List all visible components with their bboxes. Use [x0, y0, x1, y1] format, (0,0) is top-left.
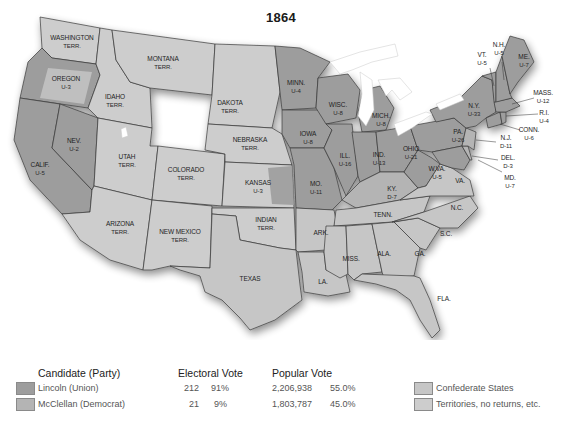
legend-lincoln-ev-pct: 91%: [211, 383, 229, 393]
leader-ri: [506, 114, 538, 116]
label-alabama: ALA.: [377, 250, 391, 257]
legend-popular-header: Popular Vote: [272, 367, 332, 379]
swatch-mcclellan: [16, 398, 35, 411]
legend-mcclellan-label: McClellan (Democrat): [38, 399, 125, 409]
label-virginia: VA.: [455, 177, 465, 184]
us-map: WASHINGTONTERR. OREGONU-3 IDAHOTERR. MON…: [0, 0, 562, 340]
legend-territories-label: Territories, no returns, etc.: [436, 399, 541, 409]
label-maryland: MD.U-7: [504, 174, 516, 189]
legend-lincoln-label: Lincoln (Union): [38, 383, 99, 393]
label-south-carolina: S.C.: [440, 230, 453, 237]
legend-confederate-label: Confederate States: [436, 383, 514, 393]
label-florida: FLA.: [437, 295, 451, 302]
leader-del: [472, 156, 498, 160]
lake-superior: [330, 44, 398, 74]
legend-electoral-header: Electoral Vote: [178, 367, 243, 379]
label-connecticut: CONN.U-6: [519, 126, 540, 141]
state-new-mexico[interactable]: [143, 200, 212, 270]
label-massachusetts: MASS.U-12: [533, 89, 553, 104]
legend-mcclellan-pv: 1,803,787: [272, 399, 312, 409]
legend-mcclellan-ev: 21: [189, 399, 199, 409]
legend-mcclellan-ev-pct: 9%: [214, 399, 227, 409]
state-kansas-union: [268, 166, 294, 205]
legend-lincoln-pv: 2,206,938: [272, 383, 312, 393]
label-new-jersey: N.J.D-11: [500, 134, 513, 149]
leader-nj: [476, 140, 496, 142]
label-georgia: GA.: [415, 250, 426, 257]
label-arkansas: ARK.: [314, 229, 329, 236]
leader-conn: [500, 124, 520, 130]
legend-lincoln-pv-pct: 55.0%: [330, 383, 356, 393]
swatch-confederate: [414, 382, 433, 395]
label-tennessee: TENN.: [373, 211, 392, 218]
label-mississippi: MISS.: [342, 255, 359, 262]
state-wisconsin[interactable]: [316, 74, 360, 124]
label-vermont: VT.U-5: [477, 51, 487, 66]
label-delaware: DEL.D-3: [501, 154, 515, 169]
leader-md: [478, 160, 502, 172]
state-dakota[interactable]: [208, 44, 280, 128]
label-texas: TEXAS: [240, 275, 262, 282]
legend-lincoln-ev: 212: [184, 383, 199, 393]
label-new-hampshire: N.H.U-5: [493, 41, 506, 56]
legend-candidate-header: Candidate (Party): [38, 367, 120, 379]
swatch-territories: [414, 398, 433, 411]
label-north-carolina: N.C.: [451, 204, 464, 211]
label-louisiana: LA.: [318, 278, 328, 285]
legend-mcclellan-pv-pct: 45.0%: [330, 399, 356, 409]
state-florida[interactable]: [354, 274, 440, 338]
swatch-lincoln: [16, 382, 35, 395]
label-rhode-island: R.I.U-4: [539, 109, 549, 124]
